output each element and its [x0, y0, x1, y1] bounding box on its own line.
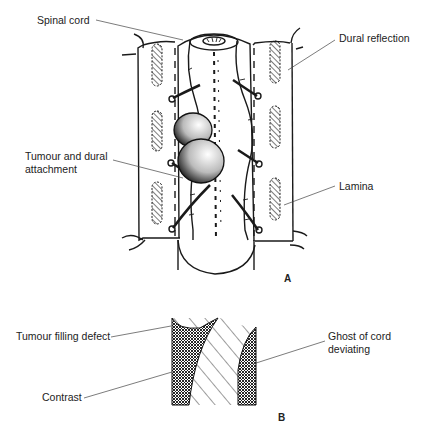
- label-dural-reflection: Dural reflection: [339, 32, 410, 45]
- label-tumour-filling-defect: Tumour filling defect: [16, 330, 110, 343]
- tumour: [174, 113, 224, 183]
- label-ghost-of-cord: Ghost of cord deviating: [328, 330, 391, 356]
- label-tumour-dural-attachment: Tumour and dural attachment: [25, 150, 108, 176]
- panel-letter-a: A: [284, 273, 291, 284]
- label-lamina: Lamina: [339, 180, 373, 193]
- label-contrast: Contrast: [42, 391, 82, 404]
- panel-b-drawing: [172, 318, 256, 405]
- label-spinal-cord: Spinal cord: [37, 14, 90, 27]
- spinal-tumour-diagram: [0, 0, 428, 433]
- panel-letter-b: B: [278, 412, 285, 423]
